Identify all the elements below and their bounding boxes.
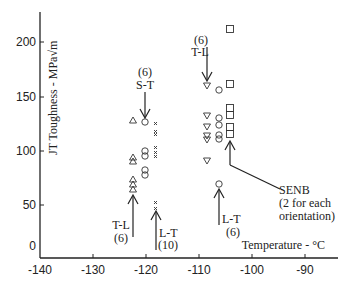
series-st-circles <box>142 119 148 178</box>
svg-text:(6): (6) <box>114 231 128 245</box>
y-tick-label: 150 <box>16 90 36 104</box>
x-tick-label: -130 <box>81 263 105 277</box>
svg-text:SENB: SENB <box>279 183 310 197</box>
y-tick-label: 50 <box>23 198 37 212</box>
svg-text:(6): (6) <box>138 65 152 79</box>
annotation-senb: SENB (2 for each orientation) <box>225 141 335 223</box>
svg-text:(2 for each: (2 for each <box>279 196 331 210</box>
y-tick-label: 200 <box>16 35 36 49</box>
series-lt-x-marks <box>154 122 157 210</box>
annotation-st: (6) S-T <box>136 65 155 118</box>
annotation-tl-bottom: T-L (6) <box>112 195 138 245</box>
series-lt-circles <box>216 87 222 187</box>
y-axis-title: JT Toughness - MPa√m <box>46 40 60 155</box>
svg-text:orientation): orientation) <box>279 209 335 223</box>
x-tick-label: -110 <box>187 263 210 277</box>
series-senb-squares <box>227 26 234 138</box>
svg-text:S-T: S-T <box>136 78 155 92</box>
svg-text:T-L: T-L <box>112 218 130 232</box>
x-axis-title: Temperature - °C <box>242 238 325 252</box>
svg-text:L-T: L-T <box>222 212 241 226</box>
y-tick-label: 0 <box>29 239 36 253</box>
svg-text:T-L: T-L <box>191 45 209 59</box>
series-tl-triangles-up <box>130 117 137 192</box>
series-tl-triangles-down <box>204 83 211 164</box>
annotation-tl-top: (6) T-L <box>191 33 212 81</box>
svg-text:(6): (6) <box>226 225 240 239</box>
x-tick-label: -90 <box>296 263 314 277</box>
annotation-lt-6: L-T (6) <box>214 189 241 239</box>
annotation-lt-10: L-T (10) <box>151 211 178 252</box>
x-tick-label: -100 <box>240 263 264 277</box>
svg-text:(10): (10) <box>158 238 178 252</box>
x-tick-label: -140 <box>28 263 52 277</box>
toughness-chart: 200 150 100 50 0 -140 -130 -120 -110 -10… <box>0 0 352 286</box>
x-tick-label: -120 <box>134 263 158 277</box>
y-tick-label: 100 <box>16 144 36 158</box>
